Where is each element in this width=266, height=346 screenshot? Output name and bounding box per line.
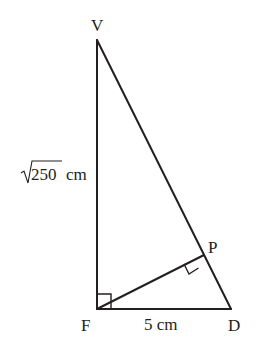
length-label-vf: 250 cm (21, 161, 87, 184)
right-angle-marker-p (184, 264, 199, 274)
length-unit-vf: cm (66, 165, 87, 184)
length-value-vf: 250 (31, 165, 57, 184)
segment-vd (97, 40, 231, 309)
segment-fp (97, 255, 204, 309)
right-angle-marker-f (97, 294, 111, 309)
triangle-diagram: V F D P 250 cm 5 cm (0, 0, 266, 346)
vertex-label-f: F (81, 316, 90, 335)
vertex-label-d: D (228, 316, 240, 335)
length-label-fd: 5 cm (144, 315, 178, 334)
vertex-label-v: V (91, 16, 104, 35)
vertex-label-p: P (208, 238, 217, 257)
